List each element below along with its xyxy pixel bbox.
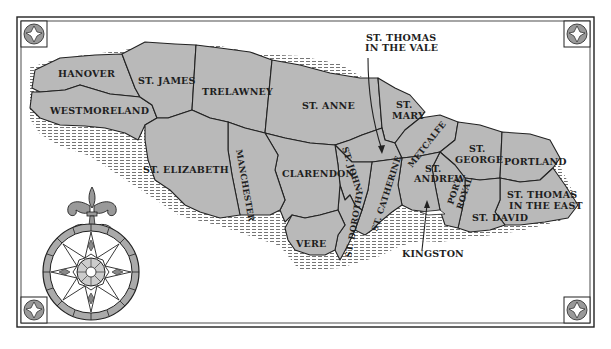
label-st-mary-2: MARY (392, 110, 425, 121)
label-st-george-1: ST. (469, 143, 486, 154)
compass-rose-icon (43, 224, 139, 320)
label-st-george-2: GEORGE (455, 154, 503, 165)
jamaica-parish-map: HANOVER ST. JAMES TRELAWNEY WESTMORELAND… (0, 0, 611, 349)
label-trelawney: TRELAWNEY (202, 86, 273, 97)
label-st-thomas-in-the-vale-2: IN THE VALE (365, 42, 438, 53)
corner-ornament-tl (21, 21, 47, 47)
corner-ornament-br (564, 297, 590, 323)
corner-ornament-bl (21, 297, 47, 323)
label-portland: PORTLAND (504, 156, 567, 167)
label-westmoreland: WESTMORELAND (49, 105, 149, 116)
label-st-thomas-in-the-east-1: ST. THOMAS (507, 189, 577, 200)
label-st-elizabeth: ST. ELIZABETH (143, 164, 229, 175)
label-kingston: KINGSTON (402, 248, 464, 259)
label-st-anne: ST. ANNE (302, 100, 355, 111)
corner-ornament-tr (564, 21, 590, 47)
label-st-james: ST. JAMES (138, 75, 196, 86)
label-clarendon: CLARENDON (282, 168, 355, 179)
label-st-thomas-in-the-east-2: IN THE EAST (509, 200, 583, 211)
label-hanover: HANOVER (58, 68, 115, 79)
label-st-david: ST. DAVID (472, 212, 528, 223)
label-vere: VERE (295, 238, 327, 249)
label-st-mary-1: ST. (396, 99, 413, 110)
